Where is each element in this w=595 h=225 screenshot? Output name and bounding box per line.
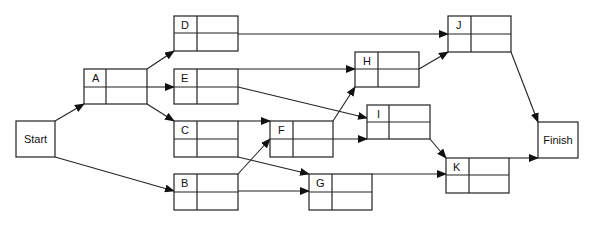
edge-b-f: [238, 139, 270, 174]
node-d-label: D: [181, 19, 189, 31]
activity-node-g: G: [309, 174, 372, 210]
activity-node-j: J: [448, 16, 511, 52]
activity-node-i: I: [367, 105, 430, 139]
activity-node-f: F: [270, 121, 333, 157]
node-a-label: A: [92, 72, 100, 84]
activity-node-d: D: [174, 16, 238, 51]
edge-h-j: [419, 52, 448, 69]
edge-a-d: [147, 51, 174, 69]
node-f-label: F: [278, 124, 285, 136]
edge-start-b: [55, 157, 174, 191]
node-k-label: K: [453, 161, 461, 173]
activity-node-a: A: [84, 69, 147, 104]
activity-node-c: C: [174, 121, 238, 157]
start-label: Start: [24, 133, 47, 145]
edge-c-g: [238, 157, 309, 174]
node-j-label: J: [456, 19, 462, 31]
node-e-label: E: [181, 72, 188, 84]
activity-node-b: B: [174, 174, 238, 210]
node-b-label: B: [181, 177, 188, 189]
network-diagram: Start Finish A D E C B F G: [0, 0, 595, 225]
activity-node-k: K: [446, 158, 509, 193]
edge-start-a: [55, 104, 84, 121]
node-g-label: G: [316, 177, 325, 189]
node-i-label: I: [377, 108, 380, 120]
edge-a-c: [147, 104, 174, 121]
activity-node-e: E: [174, 69, 238, 104]
edge-i-k: [430, 139, 446, 158]
activity-node-h: H: [355, 52, 419, 87]
edge-j-finish: [511, 52, 538, 122]
edge-e-i: [238, 87, 367, 118]
node-c-label: C: [181, 124, 189, 136]
finish-node: Finish: [538, 122, 578, 158]
node-h-label: H: [363, 55, 371, 67]
start-node: Start: [16, 121, 55, 157]
edge-f-h: [333, 87, 355, 121]
finish-label: Finish: [543, 134, 572, 146]
